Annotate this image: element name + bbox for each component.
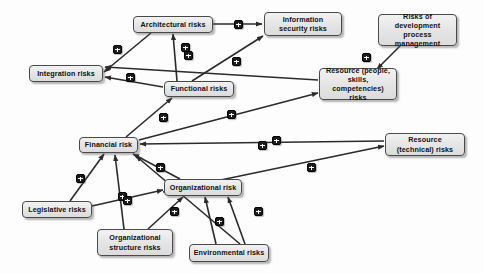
node-integration[interactable]: Integration risks xyxy=(29,65,103,82)
edge-sign-badge-resource_technical-to-financial xyxy=(272,136,281,145)
edge-sign-badge-organizational-to-financial xyxy=(156,163,165,172)
edge-sign-badge-environmental-to-financial xyxy=(258,141,267,150)
node-label-architectural: Architectural risks xyxy=(137,20,209,29)
edge-sign-badge-org_structure-to-organizational xyxy=(170,207,179,216)
node-label-information_security: Information security risks xyxy=(268,15,338,33)
edge-sign-badge-functional-to-integration xyxy=(126,73,135,82)
edge-sign-badge-legislative-to-financial xyxy=(76,174,85,183)
node-label-organizational: Organizational risk xyxy=(168,183,238,192)
node-resource_technical[interactable]: Resource (technical) risks xyxy=(385,133,465,156)
edge-sign-badge-financial-to-resource_people xyxy=(227,110,236,119)
node-label-development_process: Risks of development process management xyxy=(382,12,453,49)
edge-sign-badge-architectural-to-integration xyxy=(113,45,122,54)
node-legislative[interactable]: Legislative risks xyxy=(22,201,92,218)
edge-sign-badge-financial-to-functional xyxy=(159,113,168,122)
node-organizational[interactable]: Organizational risk xyxy=(164,179,242,196)
node-environmental[interactable]: Environmental risks xyxy=(189,244,269,262)
edge-functional-to-architectural xyxy=(173,34,177,81)
edge-sign-badge-resource_people-to-integration xyxy=(232,57,241,66)
edge-sign-badge-environmental-to-organizational xyxy=(215,217,224,226)
node-org_structure[interactable]: Organizational structure risks xyxy=(97,229,173,256)
edge-sign-badge-organizational-to-resource_technical xyxy=(307,163,316,172)
edge-sign-badge-architectural-to-information_security xyxy=(234,20,243,29)
node-label-resource_people: Resource (people, skills, competencies) … xyxy=(323,66,393,103)
node-development_process[interactable]: Risks of development process management xyxy=(378,14,457,46)
node-functional[interactable]: Functional risks xyxy=(164,81,234,97)
node-label-legislative: Legislative risks xyxy=(26,205,88,214)
node-label-resource_technical: Resource (technical) risks xyxy=(389,135,461,153)
edge-architectural-to-integration xyxy=(104,33,151,72)
edge-sign-badge-environmental-to-organizational xyxy=(254,207,263,216)
edge-sign-badge-org_structure-to-financial xyxy=(123,196,132,205)
node-label-financial: Financial risk xyxy=(83,140,134,149)
node-financial[interactable]: Financial risk xyxy=(79,137,138,153)
node-label-org_structure: Organizational structure risks xyxy=(101,233,169,251)
node-information_security[interactable]: Information security risks xyxy=(264,12,342,36)
edge-sign-badge-functional-to-information_security xyxy=(184,51,193,60)
node-label-environmental: Environmental risks xyxy=(193,248,265,257)
node-label-integration: Integration risks xyxy=(33,69,99,78)
node-label-functional: Functional risks xyxy=(168,84,230,93)
node-resource_people[interactable]: Resource (people, skills, competencies) … xyxy=(319,68,397,100)
risk-diagram-canvas: Architectural risksInformation security … xyxy=(0,0,484,273)
edge-sign-badge-development_process-to-resource_people xyxy=(362,53,371,62)
node-architectural[interactable]: Architectural risks xyxy=(133,16,213,33)
